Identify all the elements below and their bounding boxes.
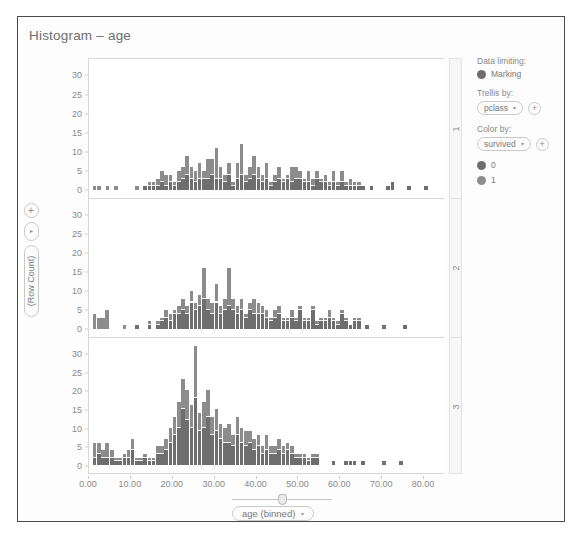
histogram-bar[interactable] xyxy=(219,424,223,465)
histogram-bar[interactable] xyxy=(210,303,214,330)
trellis-panel-1[interactable] xyxy=(88,58,444,198)
histogram-bar[interactable] xyxy=(148,458,152,465)
plot-area[interactable] xyxy=(88,58,444,474)
histogram-bar[interactable] xyxy=(286,175,290,190)
histogram-bar[interactable] xyxy=(324,175,328,190)
histogram-bar[interactable] xyxy=(344,461,348,465)
color-by-add-button[interactable]: + xyxy=(536,138,549,151)
histogram-bar[interactable] xyxy=(361,461,365,465)
histogram-bar[interactable] xyxy=(298,454,302,465)
x-axis-measure-selector[interactable]: age (binned) ▾ xyxy=(232,506,314,521)
histogram-bar[interactable] xyxy=(257,435,261,465)
histogram-bar[interactable] xyxy=(152,458,156,465)
histogram-bar[interactable] xyxy=(248,167,252,190)
histogram-bar[interactable] xyxy=(215,148,219,190)
histogram-bar[interactable] xyxy=(210,417,214,465)
histogram-bar[interactable] xyxy=(194,171,198,190)
histogram-bar[interactable] xyxy=(215,284,219,329)
histogram-bar[interactable] xyxy=(181,379,185,465)
histogram-bar[interactable] xyxy=(190,167,194,190)
histogram-bar[interactable] xyxy=(240,144,244,190)
histogram-bar[interactable] xyxy=(160,171,164,190)
histogram-bar[interactable] xyxy=(399,461,403,465)
histogram-bar[interactable] xyxy=(185,390,189,465)
histogram-bar[interactable] xyxy=(286,443,290,465)
histogram-bar[interactable] xyxy=(294,318,298,329)
trellis-panel-2[interactable] xyxy=(88,198,444,337)
histogram-bar[interactable] xyxy=(315,454,319,465)
legend-item[interactable]: 0 xyxy=(477,160,561,170)
histogram-bar[interactable] xyxy=(336,321,340,329)
histogram-bar[interactable] xyxy=(248,431,252,465)
histogram-bar[interactable] xyxy=(357,318,361,329)
histogram-bar[interactable] xyxy=(328,310,332,329)
histogram-bar[interactable] xyxy=(169,175,173,190)
histogram-bar[interactable] xyxy=(244,314,248,329)
trellis-panel-3[interactable] xyxy=(88,337,444,474)
histogram-bar[interactable] xyxy=(349,325,353,329)
histogram-bar[interactable] xyxy=(223,428,227,465)
histogram-bar[interactable] xyxy=(148,321,152,329)
histogram-bar[interactable] xyxy=(131,439,135,465)
histogram-bar[interactable] xyxy=(319,179,323,190)
x-axis-bin-slider[interactable] xyxy=(232,494,332,504)
histogram-bar[interactable] xyxy=(93,443,97,465)
legend-item[interactable]: 1 xyxy=(477,175,561,185)
histogram-bar[interactable] xyxy=(97,443,101,465)
histogram-bar[interactable] xyxy=(139,458,143,465)
histogram-bar[interactable] xyxy=(370,186,374,190)
histogram-bar[interactable] xyxy=(148,182,152,190)
histogram-bar[interactable] xyxy=(210,159,214,190)
histogram-bar[interactable] xyxy=(336,182,340,190)
histogram-bar[interactable] xyxy=(391,182,395,190)
histogram-bar[interactable] xyxy=(311,179,315,190)
histogram-bar[interactable] xyxy=(403,325,407,329)
histogram-bar[interactable] xyxy=(164,175,168,190)
histogram-bar[interactable] xyxy=(324,318,328,329)
histogram-bar[interactable] xyxy=(298,306,302,329)
histogram-bar[interactable] xyxy=(223,175,227,190)
histogram-bar[interactable] xyxy=(265,435,269,465)
histogram-bar[interactable] xyxy=(307,458,311,465)
histogram-bar[interactable] xyxy=(344,182,348,190)
histogram-bar[interactable] xyxy=(240,299,244,329)
histogram-bar[interactable] xyxy=(298,171,302,190)
histogram-bar[interactable] xyxy=(332,171,336,190)
histogram-bar[interactable] xyxy=(194,346,198,465)
histogram-bar[interactable] xyxy=(227,424,231,465)
histogram-bar[interactable] xyxy=(202,268,206,329)
histogram-bar[interactable] xyxy=(97,318,101,329)
histogram-bar[interactable] xyxy=(240,428,244,465)
histogram-bar[interactable] xyxy=(202,171,206,190)
histogram-bar[interactable] xyxy=(190,291,194,329)
histogram-bar[interactable] xyxy=(215,409,219,465)
histogram-bar[interactable] xyxy=(244,431,248,465)
histogram-bar[interactable] xyxy=(93,186,97,190)
histogram-bar[interactable] xyxy=(248,303,252,330)
histogram-bar[interactable] xyxy=(257,167,261,190)
histogram-bar[interactable] xyxy=(407,186,411,190)
histogram-bar[interactable] xyxy=(198,413,202,465)
histogram-bar[interactable] xyxy=(160,446,164,465)
histogram-bar[interactable] xyxy=(349,461,353,465)
histogram-bar[interactable] xyxy=(194,303,198,330)
histogram-bar[interactable] xyxy=(135,458,139,465)
histogram-bar[interactable] xyxy=(307,318,311,329)
histogram-bar[interactable] xyxy=(252,156,256,190)
histogram-bar[interactable] xyxy=(294,454,298,465)
histogram-bar[interactable] xyxy=(181,299,185,329)
histogram-bar[interactable] xyxy=(286,318,290,329)
histogram-bar[interactable] xyxy=(185,156,189,190)
histogram-bar[interactable] xyxy=(185,306,189,329)
histogram-bar[interactable] xyxy=(357,182,361,190)
histogram-bar[interactable] xyxy=(269,318,273,329)
histogram-bar[interactable] xyxy=(294,167,298,190)
histogram-bar[interactable] xyxy=(261,306,265,329)
histogram-bar[interactable] xyxy=(290,446,294,465)
histogram-bar[interactable] xyxy=(244,175,248,190)
histogram-bar[interactable] xyxy=(340,171,344,190)
histogram-bar[interactable] xyxy=(273,310,277,329)
slider-thumb[interactable] xyxy=(278,494,287,505)
histogram-bar[interactable] xyxy=(382,325,386,329)
histogram-bar[interactable] xyxy=(315,171,319,190)
